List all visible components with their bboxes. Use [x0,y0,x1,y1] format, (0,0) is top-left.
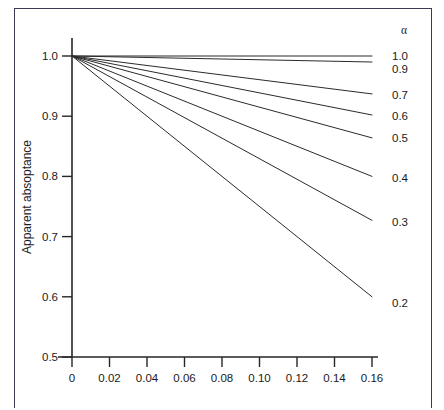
y-tick-label: 0.8 [42,170,58,182]
series-label-0.5: 0.5 [392,132,408,144]
y-tick-label: 0.6 [42,291,58,303]
series-label-0.9: 0.9 [392,63,408,75]
series-line-0.9 [72,56,372,62]
x-tick-label: 0.16 [361,372,383,384]
series-line-0.3 [72,56,372,220]
y-tick-label: 0.7 [42,231,58,243]
y-axis-ticks: 0.50.60.70.80.91.0 [42,50,72,363]
series-line-0.6 [72,56,372,115]
x-tick-label: 0.08 [211,372,233,384]
series-line-0.7 [72,56,372,94]
series-label-0.4: 0.4 [392,172,409,184]
legend-title: α [401,24,407,36]
series-line-0.5 [72,56,372,138]
y-tick-label: 0.5 [42,351,58,363]
series-label-0.2: 0.2 [392,297,408,309]
x-tick-label: 0 [69,372,75,384]
line-chart: 0.50.60.70.80.91.0 00.020.040.060.080.10… [0,0,444,410]
figure-container: 0.50.60.70.80.91.0 00.020.040.060.080.10… [0,0,444,410]
x-axis-ticks: 00.020.040.060.080.100.120.140.16 [69,357,383,384]
y-tick-label: 0.9 [42,110,58,122]
x-tick-label: 0.12 [286,372,308,384]
series-label-0.6: 0.6 [392,110,408,122]
series-label-0.7: 0.7 [392,89,408,101]
y-axis-title: Apparent absoptance [20,140,34,254]
y-tick-label: 1.0 [42,50,58,62]
series-labels-group: 1.00.90.70.60.50.40.30.2 [392,50,409,309]
series-line-0.4 [72,56,372,176]
x-tick-label: 0.06 [173,372,195,384]
series-line-0.2 [72,56,372,297]
x-tick-label: 0.14 [323,372,346,384]
series-lines-group [72,56,372,297]
x-tick-label: 0.04 [136,372,159,384]
series-label-1.0: 1.0 [392,50,408,62]
series-label-0.3: 0.3 [392,216,408,228]
figure-caption [20,402,425,409]
x-tick-label: 0.02 [98,372,120,384]
x-tick-label: 0.10 [248,372,270,384]
